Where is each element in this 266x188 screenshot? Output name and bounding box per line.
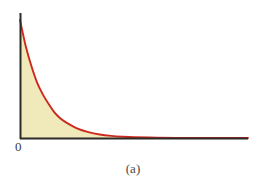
- shaded-area-under-curve: [20, 20, 248, 138]
- origin-tick-label: 0: [15, 140, 22, 153]
- figure-caption: (a): [0, 162, 266, 175]
- exponential-decay-plot: [0, 0, 266, 188]
- figure-container: 0 (a): [0, 0, 266, 188]
